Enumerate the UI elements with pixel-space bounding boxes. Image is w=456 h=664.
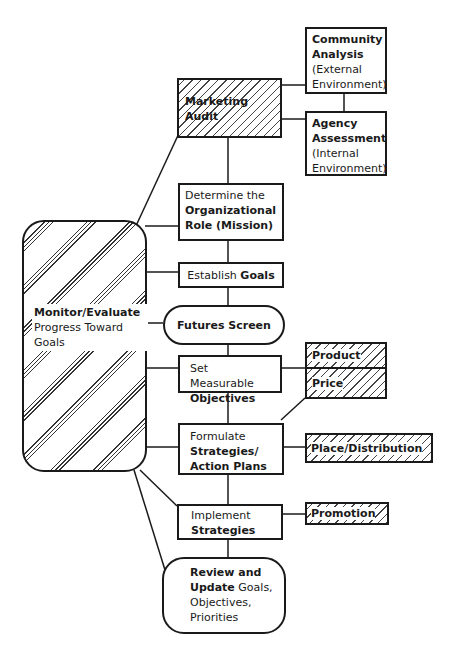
agency-assessment-subtitle: (Internal Environment) [312,146,380,176]
place-distribution-title: Place/Distribution [311,442,422,455]
monitor-evaluate-title: Monitor/Evaluate [34,305,146,320]
formulate-strategies-prefix: Formulate [190,429,272,444]
formulate-strategies-title: Strategies/ Action Plans [190,444,272,474]
monitor-evaluate-suffix: Progress Toward Goals [34,320,146,350]
determine-role-prefix: Determine the [185,188,277,203]
determine-role-box: Determine the Organizational Role (Missi… [178,183,284,241]
implement-strategies-title: Strategies [191,523,269,538]
futures-screen-box: Futures Screen [163,305,285,345]
review-update-box: Review and Update Goals, Objectives, Pri… [162,557,286,634]
implement-strategies-prefix: Implement [191,508,269,523]
establish-goals-title: Goals [240,268,274,283]
implement-strategies-box: Implement Strategies [177,504,283,540]
determine-role-title: Organizational Role (Mission) [185,203,277,233]
product-box: Product [305,342,387,369]
promotion-title: Promotion [311,507,375,520]
set-objectives-title: Objectives [190,391,270,406]
agency-assessment-box: Agency Assessment (Internal Environment) [305,111,387,176]
futures-screen-title: Futures Screen [177,318,271,333]
place-distribution-box: Place/Distribution [305,433,433,463]
set-objectives-prefix: Set Measurable [190,361,270,391]
establish-goals-prefix: Establish [187,268,237,283]
agency-assessment-title: Agency Assessment [312,116,380,146]
product-title: Product [312,349,361,362]
community-analysis-title: Community Analysis [312,32,380,62]
marketing-audit-title: Marketing Audit [185,94,245,124]
set-objectives-box: Set Measurable Objectives [178,355,282,393]
price-box: Price [305,367,387,399]
monitor-evaluate-box: Monitor/Evaluate Progress Toward Goals [22,220,147,472]
community-analysis-box: Community Analysis (External Environment… [305,27,387,94]
community-analysis-subtitle: (External Environment) [312,62,380,92]
promotion-box: Promotion [305,502,389,525]
marketing-audit-box: Marketing Audit [177,78,282,138]
establish-goals-box: Establish Goals [178,262,284,288]
formulate-strategies-box: Formulate Strategies/ Action Plans [178,423,284,475]
price-title: Price [312,377,343,390]
